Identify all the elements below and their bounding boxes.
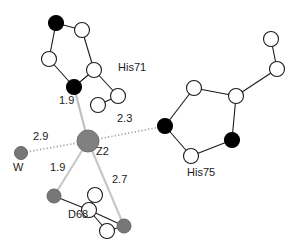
atom-his71-cg-carbon [87,63,102,78]
atom-his71-nd1-nitrogen [67,80,82,95]
atom-d68-cb-carbon [88,188,103,203]
label-his75: His75 [187,167,215,178]
atom-his71-ce1-carbon [75,23,90,38]
atom-his71-cd2-carbon [42,52,57,67]
atom-his75-cb-carbon [270,62,285,77]
atom-his75-ce1-carbon [229,89,244,104]
atom-water-oxygen [15,147,28,160]
his71-atom-group [42,16,126,113]
label-asp68: D68 [68,209,88,220]
diagram-svg [0,0,307,249]
coord-bond-z2-his75 [88,126,165,141]
atom-d68-ca-carbon [100,224,115,239]
atom-d68-od2-oxygen [117,219,131,233]
atom-his75-nd1-nitrogen [158,119,173,134]
atom-his75-ca-carbon [264,32,279,47]
distance-z2-his71: 1.9 [59,95,74,106]
his75-atom-group [158,32,285,164]
label-water: W [13,162,23,173]
atom-his71-ne-nitrogen [49,16,64,31]
atom-his75-cd2-carbon [187,81,202,96]
distance-z2-d68-od2: 2.7 [112,174,127,185]
label-metal-center: Z2 [96,146,109,157]
distance-z2-his75: 2.3 [117,113,132,124]
atom-his71-ca-carbon [91,98,106,113]
his75-bond-group [165,39,277,156]
atom-d68-od1-oxygen [47,189,61,203]
distance-z2-water: 2.9 [33,131,48,142]
atom-his71-cb-carbon [111,89,126,104]
molecular-diagram-canvas: His71 His75 D68 Z2 W 1.9 2.3 2.9 1.9 2.7 [0,0,307,249]
atom-his75-cg-carbon [184,149,199,164]
label-his71: His71 [118,62,146,73]
distance-z2-d68-od1: 1.9 [50,162,65,173]
atom-his75-ne2-nitrogen [225,133,240,148]
